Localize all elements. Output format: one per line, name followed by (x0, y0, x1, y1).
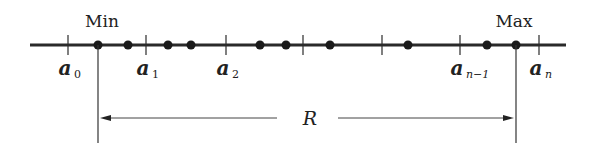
tick-label-a1: a (137, 56, 150, 80)
tick-label-a2: a (217, 56, 230, 80)
data-point (164, 41, 173, 50)
interval-ticks: a0a1a2an−1an (59, 35, 553, 81)
data-point (282, 41, 291, 50)
data-point (404, 41, 413, 50)
tick-subscript: 0 (74, 68, 81, 81)
tick-subscript: n (545, 68, 552, 81)
data-point (326, 41, 335, 50)
data-point (483, 41, 492, 50)
max-label: Max (495, 11, 533, 31)
number-line-figure: a0a1a2an−1an Min Max R (0, 0, 590, 150)
tick-subscript: 1 (152, 68, 159, 81)
range-diagram: a0a1a2an−1an Min Max R (0, 0, 590, 150)
tick-subscript: 2 (232, 68, 239, 81)
tick-subscript: n−1 (466, 68, 489, 81)
tick-label-a0: a (59, 56, 72, 80)
tick-label-an: a (530, 56, 543, 80)
arrowhead-right-icon (503, 115, 514, 121)
arrowhead-left-icon (100, 115, 111, 121)
data-point (256, 41, 265, 50)
data-point (124, 41, 133, 50)
data-point (187, 41, 196, 50)
tick-label-an-1: a (451, 56, 464, 80)
range-label: R (302, 107, 317, 129)
min-label: Min (85, 11, 119, 31)
